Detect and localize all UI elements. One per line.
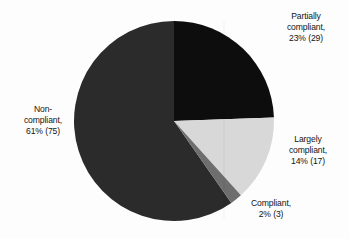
pie-label-non-line2: compliant, xyxy=(6,115,80,126)
pie-label-largely-line2: compliant, xyxy=(270,145,346,156)
pie-label-partially-line2: compliant, xyxy=(267,22,345,33)
pie-label-partially-compliant: Partially compliant, 23% (29) xyxy=(267,11,345,43)
pie-label-largely-line3: 14% (17) xyxy=(270,156,346,167)
pie-label-largely-line1: Largely xyxy=(270,134,346,145)
pie-label-compliant-line2: 2% (3) xyxy=(231,209,311,220)
pie-label-partially-line3: 23% (29) xyxy=(267,33,345,44)
pie-label-partially-line1: Partially xyxy=(267,11,345,22)
pie-label-compliant-line1: Compliant, xyxy=(231,198,311,209)
pie-label-non-compliant: Non- compliant, 61% (75) xyxy=(6,104,80,136)
pie-chart-figure: Partially compliant, 23% (29) Largely co… xyxy=(0,0,349,239)
pie-label-non-line3: 61% (75) xyxy=(6,126,80,137)
pie-label-non-line1: Non- xyxy=(6,104,80,115)
pie-label-largely-compliant: Largely compliant, 14% (17) xyxy=(270,134,346,166)
pie-label-compliant: Compliant, 2% (3) xyxy=(231,198,311,220)
